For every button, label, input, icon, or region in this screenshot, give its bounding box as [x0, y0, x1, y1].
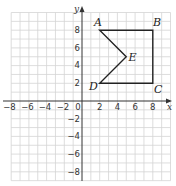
point-b-label: B	[152, 16, 161, 29]
point-a-label: A	[93, 16, 102, 29]
y-tick: −2	[67, 114, 80, 124]
point-d-label: D	[88, 80, 98, 93]
x-tick: −6	[21, 102, 34, 112]
x-axis-label: x	[167, 102, 172, 112]
x-tick: −8	[3, 102, 16, 112]
coordinate-grid: x y −8 −6 −4 −2 0 2 4 6 8 8 6 4 2 −2 −4 …	[0, 0, 176, 186]
x-tick: 2	[97, 102, 102, 112]
x-tick-labels: −8 −6 −4 −2 0 2 4 6 8	[3, 102, 155, 112]
y-axis-label: y	[73, 4, 80, 14]
y-tick: −6	[67, 149, 80, 159]
y-tick: 2	[75, 78, 80, 88]
y-axis-arrow-icon	[80, 6, 85, 12]
point-e-label: E	[128, 51, 137, 64]
x-tick: 8	[150, 102, 155, 112]
x-tick: −4	[39, 102, 52, 112]
point-c-label: C	[154, 83, 163, 96]
x-tick: −2	[57, 102, 70, 112]
x-tick: 4	[115, 102, 120, 112]
y-tick: −4	[67, 131, 80, 141]
origin-label: 0	[75, 102, 80, 112]
y-tick: 4	[75, 60, 80, 70]
y-tick: −8	[67, 167, 80, 177]
y-tick: 6	[75, 43, 80, 53]
grid-lines	[11, 13, 170, 181]
axes	[3, 9, 168, 181]
x-tick: 6	[132, 102, 137, 112]
y-tick: 8	[75, 25, 80, 35]
